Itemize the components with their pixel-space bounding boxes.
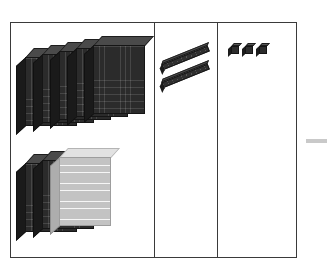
unit-front-face	[259, 46, 267, 54]
place-value-column-hundreds[interactable]	[11, 23, 154, 257]
base-ten-unit-cube-icon[interactable]	[245, 43, 254, 54]
unit-front-face	[245, 46, 253, 54]
flat-front-face	[59, 157, 111, 226]
base-ten-flat-dark-icon[interactable]	[93, 36, 145, 114]
base-ten-unit-cube-icon[interactable]	[231, 43, 240, 54]
base-ten-unit-cube-icon[interactable]	[259, 43, 268, 54]
unit-front-face	[231, 46, 239, 54]
answer-blank-marker[interactable]	[306, 139, 327, 143]
base-ten-flat-light-icon[interactable]	[59, 148, 111, 226]
place-value-column-ones[interactable]	[218, 23, 297, 257]
place-value-column-tens[interactable]	[155, 23, 217, 257]
place-value-chart	[10, 22, 297, 258]
flat-front-face	[93, 45, 145, 114]
